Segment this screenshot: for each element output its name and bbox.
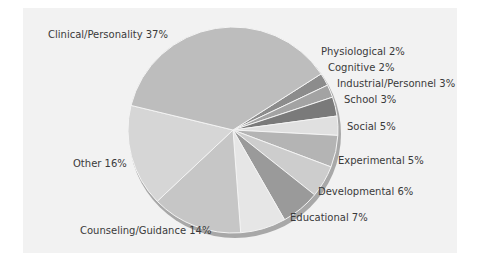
slice-label: Clinical/Personality 37% — [48, 29, 168, 40]
slice-label: Experimental 5% — [338, 155, 424, 166]
slice-label: Educational 7% — [290, 212, 368, 223]
slice-label: Other 16% — [73, 158, 127, 169]
slice-label: Developmental 6% — [318, 186, 413, 197]
slice-label: Cognitive 2% — [328, 62, 394, 73]
slice-label: Counseling/Guidance 14% — [80, 225, 211, 236]
slice-label: Physiological 2% — [321, 46, 405, 57]
slice-label: Industrial/Personnel 3% — [337, 78, 455, 89]
slice-label: School 3% — [344, 94, 396, 105]
slice-label: Social 5% — [347, 121, 396, 132]
